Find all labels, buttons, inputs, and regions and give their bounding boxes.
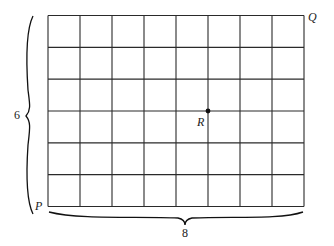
grid-diagram xyxy=(0,0,334,246)
width-label: 8 xyxy=(182,227,188,239)
point-r-label: R xyxy=(197,116,204,128)
grid-lines xyxy=(48,16,304,207)
left-brace xyxy=(26,16,33,214)
point-q-label: Q xyxy=(308,11,317,23)
point-p-label: P xyxy=(35,200,42,212)
point-r-dot xyxy=(206,109,211,114)
height-label: 6 xyxy=(14,109,20,121)
bottom-brace xyxy=(49,212,303,225)
